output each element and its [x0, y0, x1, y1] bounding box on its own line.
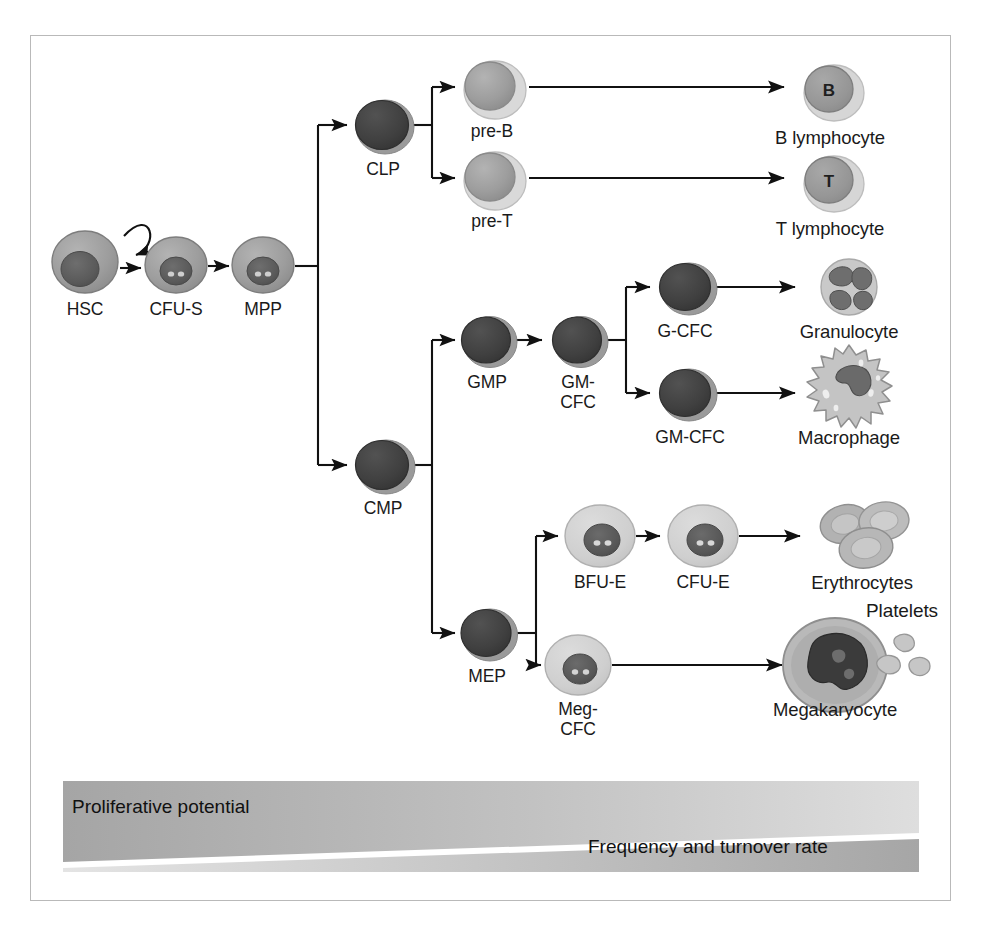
hematopoiesis-figure: B T: [0, 0, 987, 932]
label-t-lymphocyte: T lymphocyte: [776, 219, 884, 240]
cell-pre-t: [464, 152, 526, 210]
cell-macrophage: [807, 345, 892, 428]
label-platelets: Platelets: [866, 600, 938, 621]
cell-mep: [461, 609, 518, 661]
cell-mpp: [232, 237, 294, 293]
label-mpp: MPP: [244, 300, 282, 320]
cell-t-lymphocyte: T: [804, 156, 864, 212]
cell-megakaryocyte: [783, 618, 887, 712]
label-erythrocytes: Erythrocytes: [811, 573, 913, 594]
t-lymphocyte-glyph: T: [824, 172, 835, 191]
cell-erythrocytes: [816, 499, 911, 571]
label-macrophage: Macrophage: [798, 428, 900, 449]
stem-cells-group: [52, 231, 294, 293]
label-pre-t: pre-T: [471, 212, 512, 232]
b-lymphocyte-glyph: B: [823, 81, 835, 100]
cell-bfu-e: [565, 505, 635, 567]
label-meg-cfc: Meg- CFC: [558, 700, 597, 739]
label-cmp: CMP: [364, 499, 403, 519]
cell-granulocyte: [821, 259, 877, 315]
cell-meg-cfc: [545, 635, 611, 695]
label-granulocyte: Granulocyte: [800, 322, 899, 343]
erythroid-precursor-group: [545, 505, 738, 695]
label-cfu-e: CFU-E: [677, 573, 730, 593]
cell-cfus: [145, 237, 207, 293]
cell-b-lymphocyte: B: [804, 65, 864, 121]
cell-cmp: [356, 440, 416, 494]
label-megakaryocyte: Megakaryocyte: [773, 700, 897, 721]
label-gm-cfc: GM- CFC: [560, 373, 596, 412]
cell-hsc: [52, 231, 118, 293]
label-hsc: HSC: [67, 300, 104, 320]
label-proliferative-potential: Proliferative potential: [72, 796, 249, 818]
cell-cfu-e: [668, 505, 738, 567]
cell-clp: [356, 100, 415, 154]
self-renewal-arrow: [124, 225, 150, 255]
label-bfu-e: BFU-E: [574, 573, 626, 593]
label-g-cfc: G-CFC: [658, 322, 713, 342]
cell-gm-cfc-mono: [660, 369, 718, 421]
label-pre-b: pre-B: [471, 122, 513, 142]
cell-g-cfc: [660, 263, 718, 315]
gradient-bar-group: [63, 781, 919, 872]
label-mep: MEP: [468, 667, 506, 687]
cell-gmp: [462, 317, 518, 368]
label-clp: CLP: [366, 160, 400, 180]
label-gm-cfc-mono: GM-CFC: [655, 428, 724, 448]
label-b-lymphocyte: B lymphocyte: [775, 128, 885, 149]
label-cfu-s: CFU-S: [150, 300, 203, 320]
label-gmp: GMP: [467, 373, 507, 393]
cell-pre-b: [464, 61, 526, 119]
cell-gm-cfc: [553, 317, 609, 368]
label-frequency-turnover: Frequency and turnover rate: [588, 836, 828, 858]
